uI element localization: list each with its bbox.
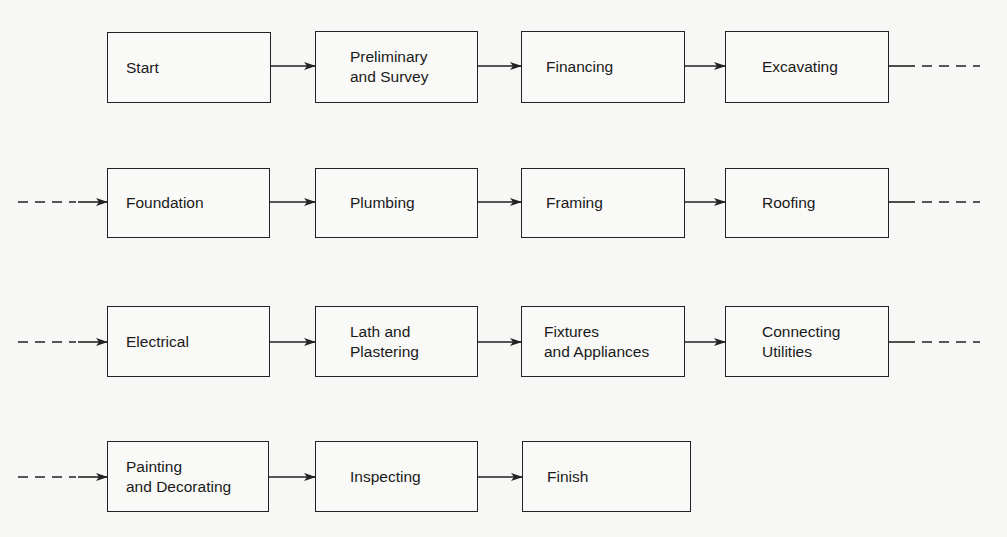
node-excavating: Excavating: [725, 31, 889, 103]
node-preliminary-and-survey: Preliminary and Survey: [315, 31, 478, 103]
node-label: Plumbing: [350, 193, 415, 213]
node-plumbing: Plumbing: [315, 168, 478, 238]
node-label: Inspecting: [350, 467, 421, 487]
node-foundation: Foundation: [107, 168, 270, 238]
node-label: Lath and Plastering: [350, 322, 419, 362]
node-financing: Financing: [521, 31, 685, 103]
node-label: Connecting Utilities: [762, 322, 840, 362]
node-label: Excavating: [762, 57, 838, 77]
node-label: Preliminary and Survey: [350, 47, 428, 87]
node-label: Fixtures and Appliances: [544, 322, 649, 362]
node-electrical: Electrical: [107, 306, 270, 377]
node-label: Start: [126, 58, 159, 78]
node-lath-and-plastering: Lath and Plastering: [315, 306, 478, 377]
node-label: Framing: [546, 193, 603, 213]
node-label: Finish: [547, 467, 588, 487]
node-label: Painting and Decorating: [126, 457, 231, 497]
node-connecting-utilities: Connecting Utilities: [725, 306, 889, 377]
node-label: Foundation: [126, 193, 204, 213]
node-framing: Framing: [521, 168, 685, 238]
node-painting-and-decorating: Painting and Decorating: [107, 441, 269, 512]
node-label: Electrical: [126, 332, 189, 352]
node-finish: Finish: [522, 441, 691, 512]
node-roofing: Roofing: [725, 168, 889, 238]
node-inspecting: Inspecting: [315, 441, 478, 512]
node-label: Roofing: [762, 193, 815, 213]
node-fixtures-and-appliances: Fixtures and Appliances: [521, 306, 685, 377]
node-label: Financing: [546, 57, 613, 77]
node-start: Start: [107, 32, 271, 103]
